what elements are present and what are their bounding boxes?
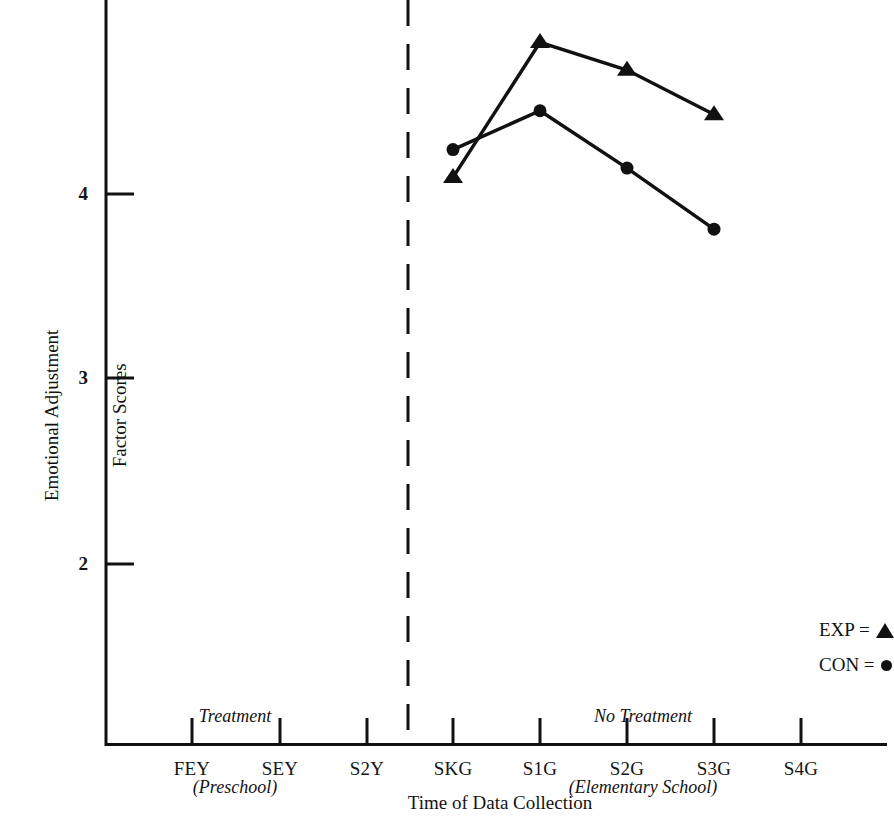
legend-entry-con: CON = xyxy=(800,632,892,698)
phase-label-right: No Treatment (Elementary School) xyxy=(528,657,758,819)
y-axis-title-text: YRS Emotional Adjustment Factor Scores xyxy=(0,285,177,545)
series-line-exp xyxy=(453,42,714,177)
phase-label-left-line1: Treatment xyxy=(145,705,325,729)
x-tick-label-s2y: S2Y xyxy=(327,758,407,780)
data-point-circle xyxy=(534,104,547,117)
phase-label-left: Treatment (Preschool) xyxy=(145,657,325,819)
data-point-triangle xyxy=(530,33,550,48)
data-point-circle xyxy=(447,143,460,156)
y-tick-label-4: 4 xyxy=(60,183,88,205)
phase-label-left-line2: (Preschool) xyxy=(145,776,325,800)
phase-label-right-line2: (Elementary School) xyxy=(528,776,758,800)
phase-label-right-line1: No Treatment xyxy=(528,705,758,729)
y-axis-title-line-2: Emotional Adjustment xyxy=(41,285,64,545)
series-line-con xyxy=(453,111,714,229)
y-tick-label-2: 2 xyxy=(60,553,88,575)
circle-marker-icon xyxy=(881,660,892,671)
x-tick-label-skg: SKG xyxy=(413,758,493,780)
y-axis-title: YRS Emotional Adjustment Factor Scores xyxy=(0,285,177,545)
data-point-circle xyxy=(621,162,634,175)
data-point-triangle xyxy=(443,168,463,183)
data-point-circle xyxy=(708,223,721,236)
legend-label-con: CON = xyxy=(819,654,875,675)
series-layer xyxy=(443,33,724,236)
y-axis-title-line-3: Factor Scores xyxy=(109,285,132,545)
x-tick-label-s4g: S4G xyxy=(761,758,841,780)
